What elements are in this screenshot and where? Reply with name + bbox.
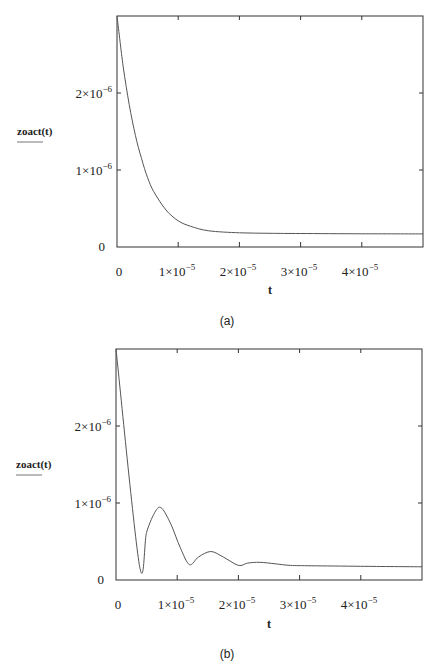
caption-b: (b) — [220, 647, 235, 661]
x-tick-label-2e-5: 2×10−5 — [219, 595, 256, 612]
x-tick-label-4e-5: 4×10−5 — [342, 262, 379, 279]
x-axis-label-a: t — [268, 283, 272, 297]
figure: 0 1×10−6 2×10−6 zoact(t) 0 1×10−5 2×10−5… — [0, 0, 436, 666]
y-axis-label-b: zoact(t) — [16, 458, 52, 471]
x-axis-label-b: t — [267, 617, 271, 631]
x-tick-label-3e-5: 3×10−5 — [280, 595, 317, 612]
x-tick-label-3e-5: 3×10−5 — [281, 262, 318, 279]
y-tick-label-2e-6: 2×10−6 — [75, 417, 112, 434]
caption-a: (a) — [220, 314, 235, 328]
x-tick-label-0: 0 — [115, 597, 122, 612]
y-axis-label-a: zoact(t) — [17, 125, 53, 138]
y-tick-label-1e-6: 1×10−6 — [75, 494, 112, 511]
y-ticks-a — [117, 93, 423, 170]
chart-a: 0 1×10−6 2×10−6 zoact(t) 0 1×10−5 2×10−5… — [17, 16, 423, 328]
x-tick-label-2e-5: 2×10−5 — [220, 262, 257, 279]
curve-b — [116, 349, 422, 573]
chart-b: 0 1×10−6 2×10−6 zoact(t) 0 1×10−5 2×10−5… — [16, 349, 422, 661]
y-tick-label-0: 0 — [99, 239, 106, 254]
curve-a — [117, 16, 423, 234]
x-ticks-b — [177, 349, 361, 580]
x-ticks-a — [178, 16, 362, 247]
plot-frame-b — [116, 349, 422, 580]
x-tick-label-1e-5: 1×10−5 — [158, 595, 195, 612]
x-tick-label-4e-5: 4×10−5 — [341, 595, 378, 612]
y-tick-label-0: 0 — [98, 572, 105, 587]
y-tick-label-1e-6: 1×10−6 — [76, 161, 113, 178]
y-tick-label-2e-6: 2×10−6 — [76, 84, 113, 101]
y-ticks-b — [116, 426, 422, 503]
x-tick-label-0: 0 — [116, 264, 123, 279]
plot-frame-a — [117, 16, 423, 247]
x-tick-label-1e-5: 1×10−5 — [159, 262, 196, 279]
